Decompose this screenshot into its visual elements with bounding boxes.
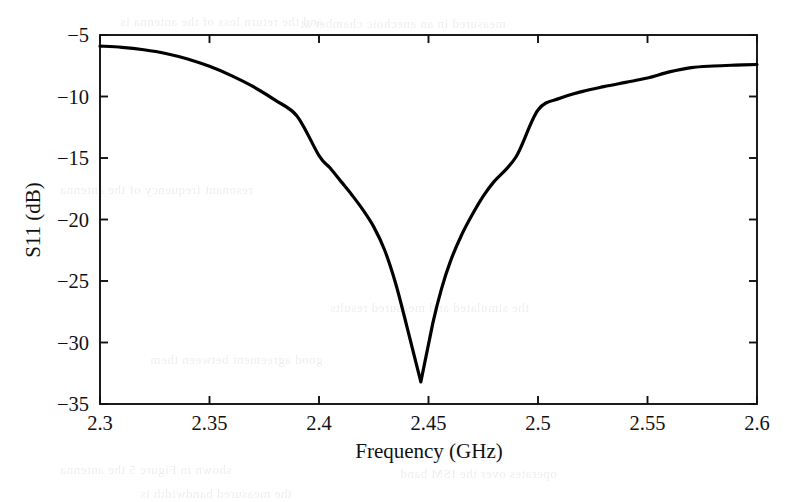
y-axis-title: S11 (dB) xyxy=(21,182,45,258)
y-tick-label: −20 xyxy=(57,209,89,231)
x-tick-label: 2.6 xyxy=(744,412,770,434)
y-tick-label: −15 xyxy=(57,147,89,169)
x-axis-title: Frequency (GHz) xyxy=(355,439,503,463)
y-tick-label: −10 xyxy=(57,86,89,108)
y-tick-label: −25 xyxy=(57,270,89,292)
x-tick-label: 2.45 xyxy=(411,412,447,434)
y-tick-label: −30 xyxy=(57,332,89,354)
x-tick-label: 2.4 xyxy=(306,412,332,434)
y-tick-label: −5 xyxy=(67,24,89,46)
x-tick-label: 2.3 xyxy=(87,412,113,434)
s11-curve xyxy=(100,46,757,382)
y-axis-tick-labels: −35−30−25−20−15−10−5 xyxy=(57,24,89,415)
x-tick-label: 2.55 xyxy=(630,412,666,434)
x-tick-label: 2.35 xyxy=(192,412,228,434)
y-tick-label: −35 xyxy=(57,393,89,415)
x-tick-label: 2.5 xyxy=(525,412,551,434)
x-axis-tick-labels: 2.32.352.42.452.52.552.6 xyxy=(87,412,770,434)
